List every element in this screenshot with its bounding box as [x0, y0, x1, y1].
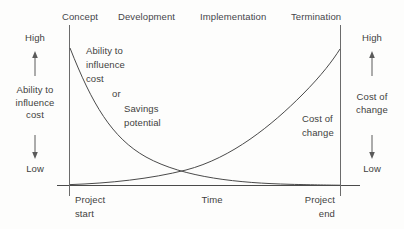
- right-axis-up-arrow-icon: [369, 51, 375, 76]
- right-axis-title-line-2: change: [345, 104, 399, 117]
- annotation-savings-line-2: potential: [124, 117, 161, 130]
- bottom-axis-project-end-line-1: Project: [280, 194, 335, 207]
- left-axis-title-line-3: cost: [5, 109, 65, 122]
- left-axis-down-arrow-icon: [32, 135, 38, 159]
- annotation-ability-line-2: influence: [86, 59, 125, 72]
- left-axis-title-line-1: Ability to: [5, 84, 65, 97]
- annotation-savings-line-1: Savings: [124, 103, 159, 116]
- bottom-axis-project-start-line-1: Project: [75, 194, 105, 207]
- annotation-ability-line-3: cost: [86, 73, 104, 86]
- left-axis-title-line-2: influence: [5, 97, 65, 110]
- bottom-axis-project-start-line-2: start: [75, 208, 94, 221]
- left-axis-up-arrow-icon: [32, 51, 38, 76]
- annotation-ability-line-1: Ability to: [86, 45, 123, 58]
- annotation-cost-of-change-line-1: Cost of: [302, 113, 333, 126]
- annotation-cost-of-change-line-2: change: [302, 127, 334, 140]
- phase-label-implementation: Implementation: [200, 11, 266, 24]
- right-axis-low-label: Low: [352, 163, 392, 176]
- right-axis-title-line-1: Cost of: [345, 91, 399, 104]
- phase-label-development: Development: [118, 11, 175, 24]
- bottom-axis-time-label: Time: [190, 194, 234, 207]
- phase-label-termination: Termination: [291, 11, 341, 24]
- project-cost-influence-diagram: Concept Development Implementation Termi…: [0, 0, 404, 229]
- phase-label-concept: Concept: [62, 11, 98, 24]
- annotation-or-label: or: [112, 88, 121, 101]
- right-axis-high-label: High: [352, 32, 392, 45]
- bottom-axis-project-end-line-2: end: [280, 208, 335, 221]
- left-axis-low-label: Low: [15, 163, 55, 176]
- right-axis-down-arrow-icon: [369, 135, 375, 159]
- left-axis-high-label: High: [15, 32, 55, 45]
